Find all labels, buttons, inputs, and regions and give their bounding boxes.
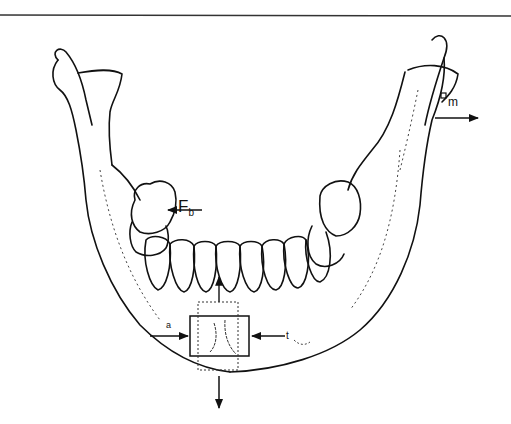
bite-force-label: Fb: [178, 197, 194, 217]
element-inner-curve-left: [210, 323, 216, 352]
muscle-attachment-marker: [441, 93, 446, 98]
right-ramus-inner: [348, 72, 405, 190]
bite-force-sub: b: [188, 207, 194, 218]
muscle-force-sub: m: [448, 95, 458, 109]
bite-force-main: F: [178, 197, 188, 216]
right-molars: [320, 181, 361, 236]
muscle-force-label: m: [448, 95, 458, 109]
left-molars: [131, 181, 176, 233]
left-ramus-inner: [112, 165, 140, 200]
front-teeth: [145, 232, 330, 292]
element-inner-curve-right: [225, 320, 236, 354]
right-ramus-dotted: [400, 90, 418, 170]
stress-element-dotted: [198, 302, 238, 370]
left-coronoid: [78, 70, 122, 165]
right-small-label: t: [286, 330, 289, 341]
left-ramus-outer: [53, 60, 230, 372]
right-ramus-outer: [230, 58, 444, 372]
mandible-figure: [0, 0, 511, 424]
left-small-label: a: [166, 320, 171, 330]
right-dotted-hook: [294, 340, 310, 344]
right-dotted-contour: [350, 150, 400, 310]
left-dotted-contour: [100, 170, 160, 320]
left-condyle: [55, 49, 92, 125]
left-small-text: a: [166, 320, 171, 330]
right-small-text: t: [286, 330, 289, 341]
top-rule: [0, 15, 511, 16]
stress-element-box: [190, 316, 249, 356]
